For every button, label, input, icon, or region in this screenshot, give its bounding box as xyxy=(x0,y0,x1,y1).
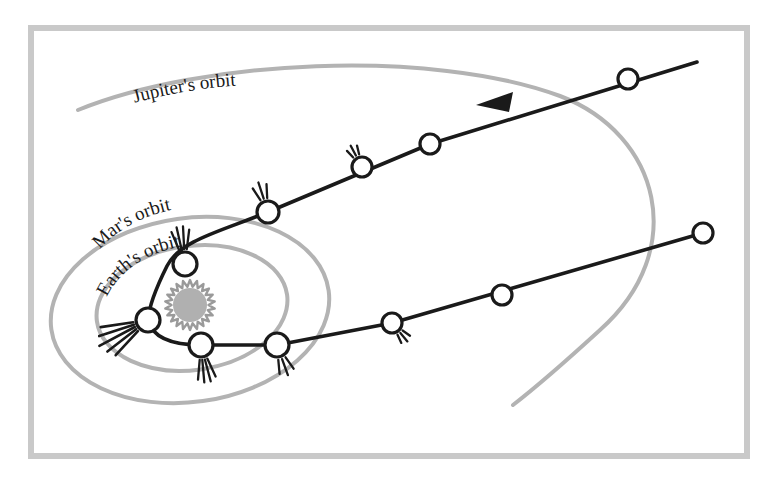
comet-inbound-5 xyxy=(253,183,279,224)
sun xyxy=(165,280,214,330)
trajectory-inbound-leg xyxy=(148,62,697,320)
sun-core xyxy=(173,288,207,322)
comet-inbound-3 xyxy=(420,134,440,154)
orbit-labels-group: Jupiter's orbit Mar's orbit Earth's orbi… xyxy=(88,69,238,300)
comet-nucleus xyxy=(136,308,160,332)
comet-inbound-4 xyxy=(347,146,372,177)
comet-inbound-2 xyxy=(618,69,638,89)
comet-nucleus xyxy=(265,333,289,357)
comet-nucleus xyxy=(420,134,440,154)
direction-arrow-icon xyxy=(476,92,513,112)
comet-tail xyxy=(347,146,359,158)
comet-trajectory xyxy=(148,62,703,345)
comet-nucleus xyxy=(173,252,197,276)
comet-nucleus xyxy=(382,313,402,333)
comet-perihelion xyxy=(99,308,160,355)
comet-outbound-1 xyxy=(189,333,216,382)
comet-orbit-diagram: Jupiter's orbit Mar's orbit Earth's orbi… xyxy=(0,0,779,482)
comet-nucleus xyxy=(693,223,713,243)
comet-outbound-4 xyxy=(492,285,512,305)
comet-outbound-5 xyxy=(693,223,713,243)
comet-nucleus xyxy=(492,285,512,305)
comet-nucleus xyxy=(257,201,279,223)
comet-tail xyxy=(253,183,267,201)
comet-tail xyxy=(278,357,293,375)
comet-nucleus xyxy=(618,69,638,89)
orbits-group xyxy=(39,66,654,421)
comet-markers-group xyxy=(99,69,713,382)
comet-nucleus xyxy=(189,333,213,357)
comet-tail xyxy=(398,331,411,343)
comet-nucleus xyxy=(352,157,372,177)
jupiter-orbit-label: Jupiter's orbit xyxy=(130,69,237,107)
